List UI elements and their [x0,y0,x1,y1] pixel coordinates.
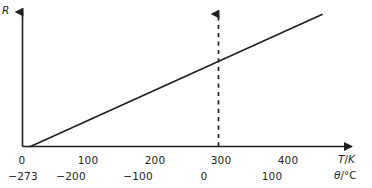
x-tick-label-kelvin: 300 [211,154,232,166]
x-tick-label-kelvin: 0 [19,154,26,166]
x-axis-title-kelvin: T/K [338,153,355,165]
x-axis-title-kelvin-unit: K [348,153,355,165]
x-tick-label-kelvin: 400 [278,154,299,166]
y-axis-title: R [2,4,9,16]
x-tick-label-celsius: −100 [123,170,153,182]
x-tick-label-celsius: −273 [8,170,38,182]
resistance-line [31,15,323,147]
x-axis-title-celsius: θ/°C [334,169,357,181]
x-axis-title-celsius-unit: °C [344,169,357,181]
resistance-temperature-graph: R 0 100 200 300 400 −273 −200 −100 0 100… [0,0,372,188]
x-tick-label-celsius: −200 [56,170,86,182]
plot-area [0,0,372,188]
x-tick-label-kelvin: 200 [145,154,166,166]
x-tick-label-celsius: 100 [262,170,283,182]
x-tick-label-celsius: 0 [201,170,208,182]
x-tick-label-kelvin: 100 [78,154,99,166]
